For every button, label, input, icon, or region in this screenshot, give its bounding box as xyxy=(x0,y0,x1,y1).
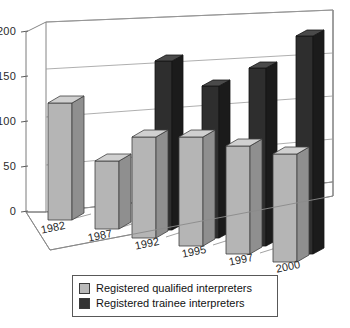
x-tick-label-2000: 2000 xyxy=(275,259,301,275)
bar-1995-qualified xyxy=(179,130,215,246)
bar-1982-qualified xyxy=(48,96,84,220)
bar-1992-qualified xyxy=(132,130,168,238)
y-tick-label-0: 0 xyxy=(0,206,16,217)
legend-item-trainee: Registered trainee interpreters xyxy=(79,296,271,310)
legend-label-trainee: Registered trainee interpreters xyxy=(96,297,245,309)
legend-item-qualified: Registered qualified interpreters xyxy=(79,281,271,295)
y-axis-ticks xyxy=(21,31,28,212)
legend-swatch-qualified-icon xyxy=(79,283,90,294)
y-tick-label-50: 50 xyxy=(0,161,16,172)
legend-label-qualified: Registered qualified interpreters xyxy=(96,282,252,294)
bar-2000-qualified xyxy=(273,147,309,262)
chart-legend: Registered qualified interpreters Regist… xyxy=(72,275,278,317)
bar-1987-qualified xyxy=(95,154,131,229)
bar-chart: 200 150 100 50 0 1982 1987 1992 1995 199… xyxy=(0,0,350,328)
y-tick-label-200: 200 xyxy=(0,26,16,37)
plot-area: 200 150 100 50 0 1982 1987 1992 1995 199… xyxy=(0,0,350,270)
y-tick-label-100: 100 xyxy=(0,116,16,127)
y-tick-label-150: 150 xyxy=(0,71,16,82)
bar-1997-qualified xyxy=(226,139,262,254)
legend-swatch-trainee-icon xyxy=(79,298,90,309)
